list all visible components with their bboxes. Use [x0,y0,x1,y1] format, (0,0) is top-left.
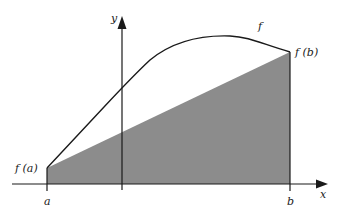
y-axis-label: y [110,12,118,25]
label-a: a [44,195,51,208]
label-f-a: f (a) [14,162,38,175]
label-b: b [287,195,294,208]
x-axis-label: x [320,188,327,201]
curve-label-f: f [257,20,264,33]
label-f-b: f (b) [294,46,318,59]
diagram-canvas: y x f f (b) f (a) a b [0,0,338,218]
y-axis-arrow-icon [118,16,127,29]
shaded-trapezoid [47,52,290,184]
